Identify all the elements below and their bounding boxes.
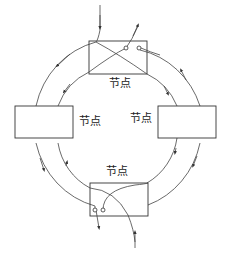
- node-top-label: 节点: [109, 78, 131, 90]
- top-port-1: [124, 46, 128, 50]
- top-port-2: [137, 46, 141, 50]
- bottom-port-2: [101, 208, 105, 212]
- node-right-label: 节点: [130, 113, 152, 125]
- node-bottom-label: 节点: [106, 166, 128, 178]
- outer-ring: [36, 42, 200, 206]
- node-left-box: [15, 106, 73, 138]
- bottom-node-routing: [90, 183, 148, 242]
- bottom-port-1: [93, 208, 97, 212]
- bottom-output-arrow: [96, 210, 99, 228]
- node-left-label: 节点: [79, 116, 101, 128]
- node-bottom-box: [90, 183, 148, 216]
- ring-diagram: [0, 0, 230, 260]
- top-output-arrow: [133, 25, 138, 36]
- top-node-routing: [89, 15, 147, 74]
- node-right-box: [158, 106, 216, 138]
